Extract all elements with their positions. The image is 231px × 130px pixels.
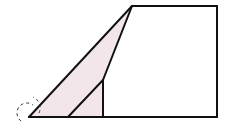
geometry-diagram xyxy=(0,0,231,130)
